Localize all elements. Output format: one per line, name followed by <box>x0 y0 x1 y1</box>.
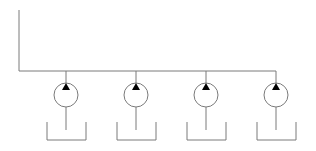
pump-unit <box>187 71 226 140</box>
pump-unit <box>47 71 86 140</box>
hydraulic-diagram <box>0 0 316 151</box>
pump-unit <box>117 71 156 140</box>
pump-group <box>47 71 296 140</box>
pressure-line <box>19 10 276 71</box>
pressure-line-path <box>19 10 276 71</box>
pump-unit <box>257 71 296 140</box>
